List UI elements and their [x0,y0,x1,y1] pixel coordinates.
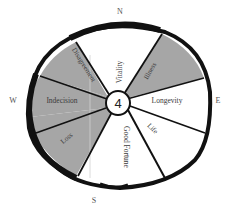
label-longevity: Longevity [152,96,183,105]
label-life: Life [145,122,159,136]
compass-north: N [117,7,123,16]
compass-wheel-diagram: 4 Vitality Illness Longevity Life Good F… [0,0,228,211]
spoke [130,106,205,133]
compass-south: S [92,196,96,205]
compass-west: W [9,96,17,105]
hub-label: 4 [114,96,121,111]
label-good-fortune: Good Fortune [122,126,131,169]
sector-loss [30,108,112,176]
label-vitality: Vitality [115,61,124,84]
label-indecision: Indecision [46,96,77,105]
compass-east: E [216,96,221,105]
spoke [128,110,166,180]
outer-rim-thick-top [70,25,160,38]
